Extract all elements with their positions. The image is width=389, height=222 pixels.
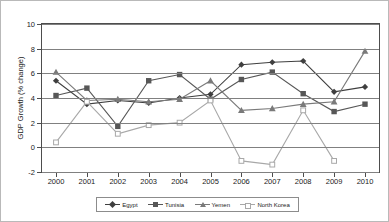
legend-item-yemen[interactable]: Yemen bbox=[195, 201, 230, 208]
chart-frame: GDP Growth (% change) -20246810 20002001… bbox=[0, 0, 389, 222]
x-tick-label: 2001 bbox=[79, 177, 96, 186]
gridline bbox=[42, 123, 379, 124]
x-tick-label: 2002 bbox=[109, 177, 126, 186]
x-tick-label: 2010 bbox=[357, 177, 374, 186]
series-line bbox=[56, 100, 334, 164]
x-tick-label: 2004 bbox=[171, 177, 188, 186]
gridline bbox=[42, 49, 379, 50]
legend-item-north-korea[interactable]: North Korea bbox=[240, 201, 289, 208]
gridline bbox=[42, 73, 379, 74]
x-tick-label: 2003 bbox=[140, 177, 157, 186]
legend-label: Egypt bbox=[122, 202, 137, 208]
series-yemen bbox=[53, 48, 369, 113]
gridline bbox=[42, 98, 379, 99]
series-north-korea bbox=[54, 98, 337, 167]
plot-area bbox=[41, 23, 380, 173]
legend-marker-icon bbox=[148, 201, 163, 208]
x-tick-label: 2008 bbox=[295, 177, 312, 186]
legend-marker-icon bbox=[105, 201, 120, 208]
legend-item-egypt[interactable]: Egypt bbox=[105, 201, 137, 208]
x-axis-tick-labels: 2000200120022003200420052006200720082009… bbox=[41, 175, 380, 189]
gridline bbox=[42, 147, 379, 148]
x-tick-label: 2005 bbox=[202, 177, 219, 186]
legend-marker-icon bbox=[240, 201, 255, 208]
legend-label: Yemen bbox=[212, 202, 230, 208]
x-tick-label: 2009 bbox=[326, 177, 343, 186]
chart-legend: EgyptTunisiaYemenNorth Korea bbox=[96, 197, 299, 212]
legend-label: Tunisia bbox=[165, 202, 184, 208]
x-tick-label: 2007 bbox=[264, 177, 281, 186]
legend-marker-icon bbox=[195, 201, 210, 208]
x-tick-label: 2000 bbox=[48, 177, 65, 186]
y-axis-tick-marks bbox=[1, 23, 41, 173]
legend-item-tunisia[interactable]: Tunisia bbox=[148, 201, 184, 208]
x-tick-label: 2006 bbox=[233, 177, 250, 186]
gridline bbox=[42, 24, 379, 25]
legend-label: North Korea bbox=[257, 202, 289, 208]
